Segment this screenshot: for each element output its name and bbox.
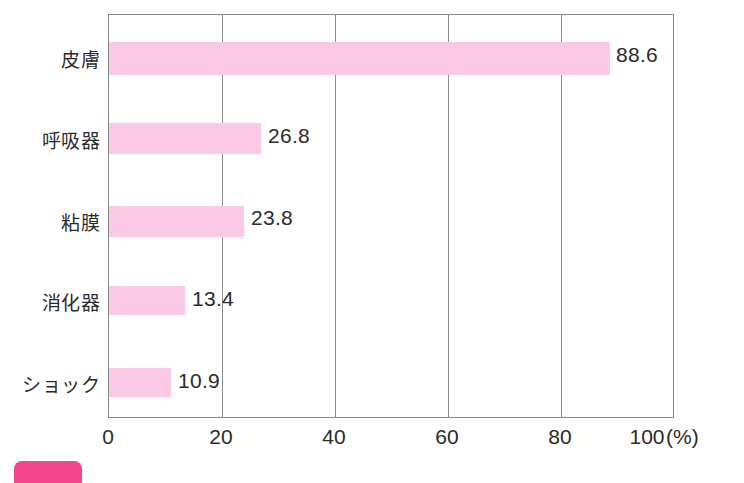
- value-label-digestive: 13.4: [192, 287, 234, 311]
- plot-area: [108, 14, 674, 418]
- category-label-skin: 皮膚: [0, 45, 100, 72]
- category-label-digestive: 消化器: [0, 288, 100, 315]
- xtick-0: 0: [78, 425, 138, 449]
- bar-mucosa: [109, 206, 244, 237]
- xtick-60: 60: [417, 425, 477, 449]
- bar-skin: [109, 42, 610, 75]
- bottom-accent-tab: [14, 461, 82, 483]
- gridline-60: [448, 15, 449, 417]
- category-label-mucosa: 粘膜: [0, 208, 100, 235]
- bar-digestive: [109, 286, 185, 315]
- bar-respiratory: [109, 123, 261, 154]
- value-label-shock: 10.9: [178, 369, 220, 393]
- value-label-skin: 88.6: [616, 43, 658, 67]
- xtick-80: 80: [530, 425, 590, 449]
- gridline-40: [335, 15, 336, 417]
- axis-unit-label: (%): [666, 425, 699, 449]
- category-label-shock: ショック: [0, 370, 100, 397]
- xtick-20: 20: [191, 425, 251, 449]
- value-label-respiratory: 26.8: [268, 124, 310, 148]
- category-label-respiratory: 呼吸器: [0, 126, 100, 153]
- gridline-80: [561, 15, 562, 417]
- bar-shock: [109, 368, 171, 397]
- value-label-mucosa: 23.8: [251, 206, 293, 230]
- xtick-40: 40: [304, 425, 364, 449]
